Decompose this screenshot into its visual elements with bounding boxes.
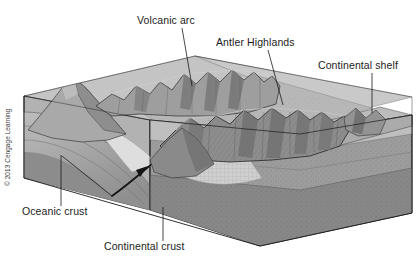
block-diagram-body bbox=[24, 56, 412, 246]
label-continental-crust: Continental crust bbox=[104, 240, 185, 252]
label-volcanic-arc: Volcanic arc bbox=[137, 14, 195, 26]
label-antler-highlands: Antler Highlands bbox=[216, 36, 295, 48]
label-oceanic-crust: Oceanic crust bbox=[22, 205, 88, 217]
label-continental-shelf: Continental shelf bbox=[318, 59, 398, 71]
copyright-text: © 2013 Cengage Learning bbox=[4, 108, 12, 186]
copyright-notice: © 2013 Cengage Learning bbox=[4, 108, 12, 186]
antler-orogeny-block-diagram: Volcanic arc Antler Highlands Continenta… bbox=[0, 0, 417, 274]
